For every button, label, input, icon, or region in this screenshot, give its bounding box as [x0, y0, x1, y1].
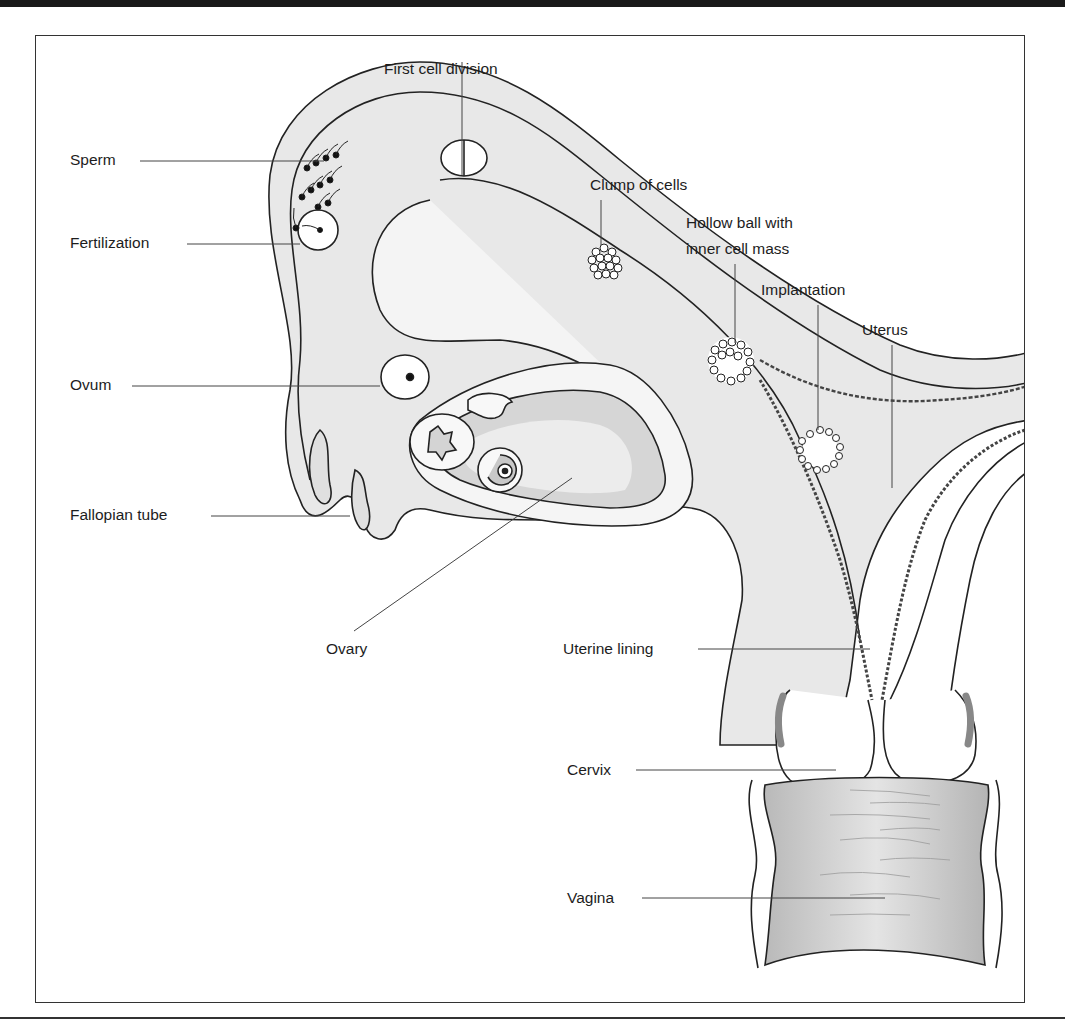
label-ovary: Ovary: [326, 640, 367, 658]
label-clump-of-cells: Clump of cells: [590, 176, 687, 194]
cervix-right-lip: [883, 690, 976, 784]
label-uterus: Uterus: [862, 321, 908, 339]
label-sperm: Sperm: [70, 151, 116, 169]
label-fallopian-tube: Fallopian tube: [70, 506, 167, 524]
label-ovum: Ovum: [70, 376, 111, 394]
label-vagina: Vagina: [567, 889, 614, 907]
label-uterine-lining: Uterine lining: [563, 640, 653, 658]
label-hollow-ball-line1: Hollow ball with: [686, 214, 793, 232]
label-first-cell-division: First cell division: [384, 60, 498, 78]
label-hollow-ball-line2: inner cell mass: [686, 240, 789, 258]
label-fertilization: Fertilization: [70, 234, 149, 252]
vagina: [764, 778, 988, 966]
label-cervix: Cervix: [567, 761, 611, 779]
cervix-left-lip: [776, 690, 874, 791]
label-implantation: Implantation: [761, 281, 845, 299]
ovum: [381, 355, 429, 399]
